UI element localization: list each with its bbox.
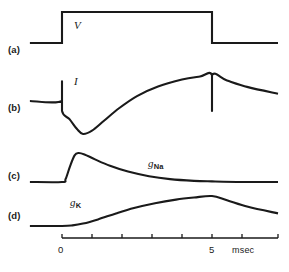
time-axis [62,234,278,238]
potassium-conductance-subscript: K [76,201,81,210]
axis-tick-label-5: 5 [209,244,214,255]
potassium-conductance-label: gK [70,196,81,208]
current-trace-label: I [74,75,78,87]
panel-label-d: (d) [8,210,21,221]
voltage-clamp-figure: (a) (b) (c) (d) V I gNa gK 0 5 msec [0,0,289,272]
sodium-conductance-subscript: Na [154,162,164,171]
voltage-trace-label: V [74,19,81,31]
sodium-conductance-symbol: g [148,157,154,169]
axis-tick-label-0: 0 [58,244,63,255]
panel-label-c: (c) [8,170,20,181]
trace-voltage [30,12,278,43]
panel-label-b: (b) [8,102,21,113]
sodium-conductance-label: gNa [148,157,163,169]
axis-unit-label: msec [232,245,254,255]
trace-current [30,73,278,134]
trace-canvas [0,0,289,272]
trace-potassium-conductance [30,196,278,226]
potassium-conductance-symbol: g [70,196,76,208]
panel-label-a: (a) [8,44,20,55]
